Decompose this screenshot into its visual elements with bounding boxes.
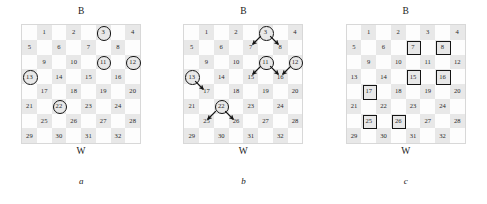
square-number-label: 4 [450, 29, 465, 36]
board-square-light [66, 69, 81, 84]
board-square-4: 4 [288, 25, 303, 40]
square-number-label: 5 [184, 44, 199, 51]
square-number-label: 25 [199, 118, 214, 125]
board-square-30: 30 [214, 128, 229, 143]
board-square-light [347, 55, 362, 70]
board-square-18: 18 [391, 84, 406, 99]
square-number-label: 9 [37, 59, 52, 66]
square-number-label: 4 [125, 29, 140, 36]
board-square-light [420, 128, 435, 143]
circle-marker-11 [259, 56, 274, 71]
square-number-label: 28 [288, 118, 303, 125]
board-square-16: 16 [273, 69, 288, 84]
board-square-31: 31 [406, 128, 421, 143]
board-square-light [391, 99, 406, 114]
board-square-light [391, 40, 406, 55]
board-square-light [347, 84, 362, 99]
board-square-light [347, 25, 362, 40]
square-number-label: 7 [81, 44, 96, 51]
board-square-light [243, 114, 258, 129]
board-square-light [52, 114, 67, 129]
board-square-light [435, 25, 450, 40]
board-square-8: 8 [111, 40, 126, 55]
square-number-label: 20 [125, 88, 140, 95]
board-square-18: 18 [66, 84, 81, 99]
board-square-24: 24 [435, 99, 450, 114]
board-square-27: 27 [96, 114, 111, 129]
board-panel-b: B 12345678910111213141516171819202122232… [162, 0, 324, 204]
box-marker-25 [363, 115, 377, 129]
board-square-light [450, 99, 465, 114]
board-square-light [125, 40, 140, 55]
board-square-14: 14 [214, 69, 229, 84]
board-square-4: 4 [125, 25, 140, 40]
board-square-light [258, 69, 273, 84]
square-number-label: 20 [450, 88, 465, 95]
board-square-7: 7 [243, 40, 258, 55]
board-square-5: 5 [22, 40, 37, 55]
square-number-label: 26 [66, 118, 81, 125]
box-marker-8 [436, 41, 450, 55]
board-square-9: 9 [199, 55, 214, 70]
board-square-light [420, 99, 435, 114]
board-square-light [111, 55, 126, 70]
square-number-label: 32 [111, 132, 126, 139]
board-square-24: 24 [273, 99, 288, 114]
board-square-23: 23 [81, 99, 96, 114]
board-square-light [96, 128, 111, 143]
board-square-light [229, 99, 244, 114]
board-square-light [111, 25, 126, 40]
board-square-17: 17 [199, 84, 214, 99]
board-square-light [199, 128, 214, 143]
board-square-light [258, 128, 273, 143]
square-number-label: 24 [273, 103, 288, 110]
board-square-20: 20 [450, 84, 465, 99]
board-square-3: 3 [420, 25, 435, 40]
board-square-light [52, 55, 67, 70]
board-square-light [243, 25, 258, 40]
board-square-light [288, 69, 303, 84]
board-square-light [406, 84, 421, 99]
square-number-label: 11 [420, 59, 435, 66]
board-square-1: 1 [37, 25, 52, 40]
square-number-label: 20 [288, 88, 303, 95]
board-square-light [52, 84, 67, 99]
board-square-light [376, 114, 391, 129]
square-number-label: 23 [81, 103, 96, 110]
square-number-label: 14 [376, 73, 391, 80]
circle-marker-3 [259, 26, 274, 41]
bottom-label-white: W [0, 146, 162, 156]
board-square-17: 17 [37, 84, 52, 99]
board-square-light [184, 55, 199, 70]
board-square-light [435, 84, 450, 99]
checkerboard-b: 1234567891011121314151617181920212223242… [183, 24, 303, 144]
board-square-26: 26 [391, 114, 406, 129]
square-number-label: 8 [111, 44, 126, 51]
board-panel-c: B 12345678910111213141516171819202122232… [325, 0, 487, 204]
board-square-light [347, 114, 362, 129]
board-square-30: 30 [376, 128, 391, 143]
board-square-5: 5 [184, 40, 199, 55]
board-square-light [66, 40, 81, 55]
board-square-light [37, 69, 52, 84]
board-square-light [199, 69, 214, 84]
board-square-1: 1 [199, 25, 214, 40]
square-number-label: 21 [22, 103, 37, 110]
square-number-label: 17 [37, 88, 52, 95]
square-number-label: 23 [243, 103, 258, 110]
board-square-24: 24 [111, 99, 126, 114]
bottom-label-white: W [325, 146, 487, 156]
checkerboard-c: 1234567891011121314151617181920212223242… [346, 24, 466, 144]
square-number-label: 14 [52, 73, 67, 80]
square-number-label: 2 [229, 29, 244, 36]
board-square-light [96, 40, 111, 55]
square-number-label: 12 [450, 59, 465, 66]
board-square-10: 10 [229, 55, 244, 70]
board-square-light [81, 114, 96, 129]
board-square-8: 8 [273, 40, 288, 55]
board-square-light [199, 99, 214, 114]
board-square-light [81, 55, 96, 70]
top-label-black: B [0, 6, 162, 16]
square-number-label: 2 [66, 29, 81, 36]
panel-caption-c: c [325, 176, 487, 186]
